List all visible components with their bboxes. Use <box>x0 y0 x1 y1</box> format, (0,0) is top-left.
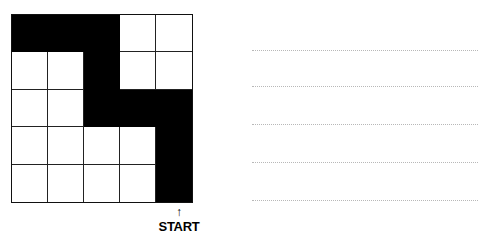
answer-line <box>252 162 478 163</box>
grid-cell-empty <box>48 165 84 202</box>
up-arrow-icon: ↑ <box>157 206 201 218</box>
grid-cell-filled <box>156 165 192 202</box>
grid-cell-empty <box>156 52 192 89</box>
path-grid <box>11 14 193 203</box>
grid-cell-filled <box>84 90 120 127</box>
answer-line <box>252 86 478 87</box>
grid-cell-empty <box>84 127 120 164</box>
grid-cell-filled <box>156 90 192 127</box>
grid-cell-empty <box>48 90 84 127</box>
answer-line <box>252 200 478 201</box>
grid-cell-filled <box>12 15 48 52</box>
start-label: START <box>157 219 201 234</box>
start-marker: ↑ START <box>157 206 201 234</box>
grid-cell-filled <box>48 15 84 52</box>
grid-cell-filled <box>84 15 120 52</box>
answer-line <box>252 50 478 51</box>
grid-cell-empty <box>156 15 192 52</box>
grid-cell-empty <box>12 127 48 164</box>
grid-cell-empty <box>48 127 84 164</box>
grid-cell-empty <box>120 165 156 202</box>
answer-line <box>252 124 478 125</box>
grid-cell-empty <box>48 52 84 89</box>
grid-cell-filled <box>120 90 156 127</box>
grid-cell-filled <box>156 127 192 164</box>
grid-cell-empty <box>120 15 156 52</box>
grid-cell-empty <box>120 127 156 164</box>
grid-cell-empty <box>12 165 48 202</box>
grid-cell-empty <box>120 52 156 89</box>
grid-cell-empty <box>12 52 48 89</box>
grid-cell-empty <box>12 90 48 127</box>
grid-cell-empty <box>84 165 120 202</box>
grid-cell-filled <box>84 52 120 89</box>
